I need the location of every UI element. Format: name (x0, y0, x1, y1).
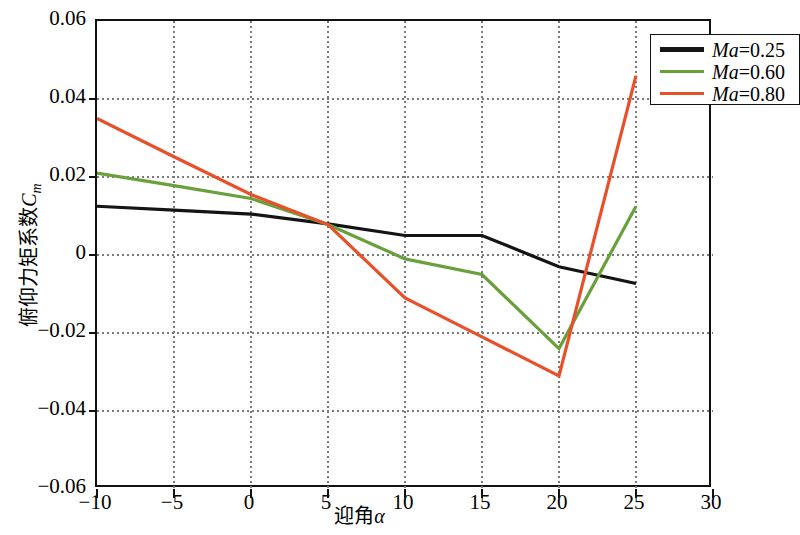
y-axis-title: 俯仰力矩系数Cm (18, 125, 48, 385)
series-lines (97, 21, 713, 489)
y-tick-label: −0.04 (0, 398, 86, 419)
y-tick (89, 332, 97, 334)
y-tick (89, 410, 97, 412)
x-axis-title: 迎角α (0, 505, 719, 527)
x-tick (96, 489, 98, 498)
x-tick (712, 489, 714, 498)
y-tick (89, 98, 97, 100)
y-tick-label: 0.04 (0, 86, 86, 107)
legend-swatch-ma060 (660, 70, 704, 74)
legend-item: Ma=0.60 (651, 61, 799, 82)
legend: Ma=0.25 Ma=0.60 Ma=0.80 (650, 34, 800, 105)
legend-swatch-ma080 (660, 92, 704, 96)
series-line-0 (97, 206, 636, 283)
legend-swatch-ma025 (660, 47, 704, 52)
y-tick (89, 254, 97, 256)
y-tick (89, 176, 97, 178)
legend-item: Ma=0.25 (651, 39, 799, 60)
x-tick (327, 489, 329, 498)
legend-item: Ma=0.80 (651, 83, 799, 104)
x-tick (635, 489, 637, 498)
series-line-2 (97, 76, 636, 376)
legend-label-ma060: Ma=0.60 (712, 62, 785, 82)
x-tick (173, 489, 175, 498)
legend-label-ma025: Ma=0.25 (712, 40, 785, 60)
legend-label-ma080: Ma=0.80 (712, 84, 785, 104)
x-tick (481, 489, 483, 498)
x-tick (558, 489, 560, 498)
x-tick (250, 489, 252, 498)
plot-area: Ma=0.25 Ma=0.60 Ma=0.80 (95, 19, 711, 487)
y-tick-label: 0.06 (0, 8, 86, 29)
x-tick (404, 489, 406, 498)
